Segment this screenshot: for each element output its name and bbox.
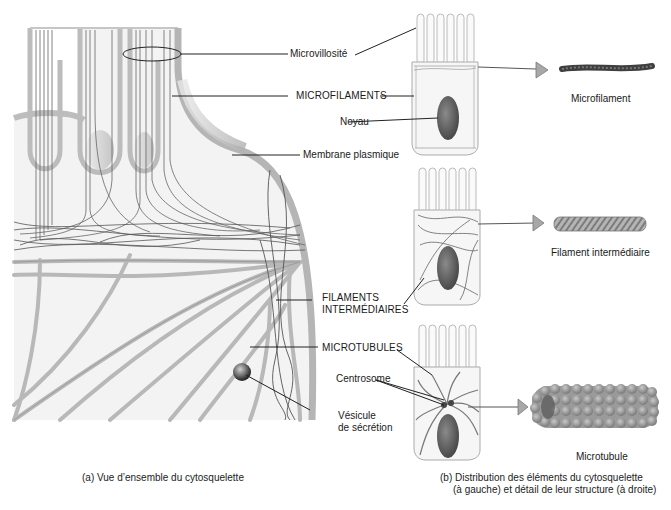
label-noyau: Noyau	[340, 116, 369, 128]
cell-microtubule	[414, 325, 480, 460]
cell-intermediate-filament	[414, 168, 480, 305]
intermediate-filament-structure	[554, 217, 646, 231]
label-intermediate-filament-structure: Filament intermédiaire	[551, 247, 650, 259]
label-centrosome: Centrosome	[336, 373, 390, 385]
label-vesicule-line2: de sécrétion	[338, 422, 392, 434]
label-microtubule-structure: Microtubule	[576, 451, 628, 463]
caption-panel-a: (a) Vue d’ensemble du cytosquelette	[82, 472, 244, 484]
microtubule-structure	[530, 384, 659, 428]
label-filaments-line1: FILAMENTS	[322, 292, 379, 304]
label-vesicule-line1: Vésicule	[338, 410, 376, 422]
cell-microfilament	[412, 14, 478, 155]
caption-panel-b-line1: (b) Distribution des éléments du cytosqu…	[440, 472, 643, 484]
label-microfilaments: MICROFILAMENTS	[296, 90, 387, 102]
label-microtubules: MICROTUBULES	[322, 342, 403, 354]
label-microvillosite: Microvillosité	[290, 48, 347, 60]
panel-b-cells	[348, 14, 659, 460]
caption-panel-b-line2: (à gauche) et détail de leur structure (…	[453, 484, 656, 496]
label-membrane-plasmique: Membrane plasmique	[303, 149, 399, 161]
label-filaments-line2: INTERMÉDIAIRES	[322, 304, 408, 316]
label-microfilament-structure: Microfilament	[571, 93, 630, 105]
vesicle-icon	[233, 363, 251, 381]
microfilament-structure	[562, 66, 652, 69]
panel-a-cell	[14, 28, 318, 420]
